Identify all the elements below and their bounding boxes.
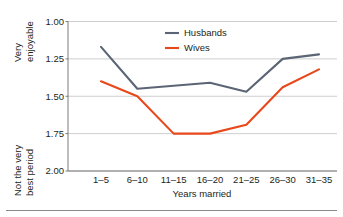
chart-figure: 1.001.251.501.752.00 1–56–1011–1516–2021… (0, 0, 343, 217)
y-tick-label: 2.00 (46, 165, 65, 176)
line-chart: 1.001.251.501.752.00 1–56–1011–1516–2021… (0, 0, 343, 217)
y-tick-label: 1.00 (46, 16, 65, 27)
x-tick-label: 26–30 (269, 174, 295, 185)
x-tick-label: 6–10 (127, 174, 148, 185)
y-caption-very-enjoyable-line-1: Very (12, 43, 23, 62)
y-tick-label: 1.50 (46, 91, 65, 102)
x-tick-label: 21–25 (233, 174, 259, 185)
y-caption-very-enjoyable-line-2: enjoyable (24, 21, 35, 62)
y-tick-label: 1.25 (46, 53, 65, 64)
x-tick-label: 31–35 (306, 174, 332, 185)
legend-label-wives: Wives (184, 42, 210, 53)
x-tick-label: 16–20 (197, 174, 223, 185)
x-axis-title: Years married (173, 188, 232, 199)
y-caption-not-best-period-line-2: best period (24, 149, 35, 196)
legend-label-husbands: Husbands (184, 27, 227, 38)
x-tick-label: 1–5 (93, 174, 109, 185)
x-tick-label: 11–15 (161, 174, 187, 185)
y-tick-label: 1.75 (46, 128, 65, 139)
y-caption-not-best-period-line-1: Not the very (12, 145, 23, 196)
